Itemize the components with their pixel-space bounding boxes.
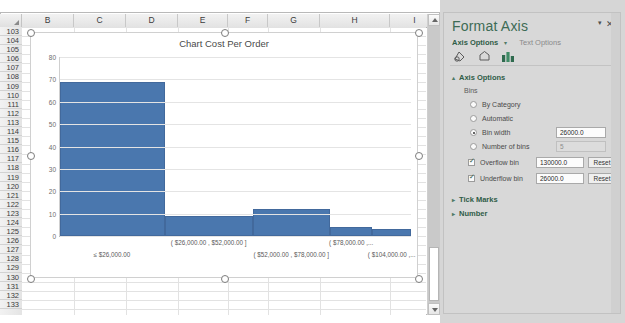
row-header-108[interactable]: 108 — [0, 72, 22, 81]
pane-scrollbar[interactable] — [611, 13, 620, 313]
chart-handle-top-center[interactable] — [221, 29, 229, 37]
histogram-bar[interactable] — [330, 227, 372, 236]
option-number-of-bins[interactable]: Number of bins — [470, 143, 529, 150]
row-header-104[interactable]: 104 — [0, 36, 22, 45]
row-header-106[interactable]: 106 — [0, 54, 22, 63]
radio-number-of-bins-icon[interactable] — [470, 143, 477, 150]
row-header-133[interactable]: 133 — [0, 300, 22, 309]
column-header-E[interactable]: E — [178, 14, 228, 27]
pane-icon-row[interactable] — [453, 50, 516, 63]
chart-handle-middle-right[interactable] — [415, 152, 423, 160]
underflow-bin-input[interactable]: 26000.0 — [536, 173, 584, 184]
histogram-bar[interactable] — [165, 216, 253, 236]
row-header-109[interactable]: 109 — [0, 82, 22, 91]
row-header-119[interactable]: 119 — [0, 173, 22, 182]
section-axis-options[interactable]: ▴Axis Options — [452, 73, 505, 82]
column-header-H[interactable]: H — [320, 14, 390, 27]
fill-line-icon[interactable] — [453, 50, 468, 63]
checkbox-underflow-bin-icon[interactable] — [468, 175, 475, 182]
number-of-bins-input[interactable]: 5 — [556, 141, 606, 152]
chart-plot-area[interactable]: 01020304050607080 — [59, 57, 411, 237]
option-automatic[interactable]: Automatic — [470, 115, 513, 122]
tick-marks-expand-arrow[interactable]: ▸ — [452, 196, 459, 203]
row-header-131[interactable]: 131 — [0, 282, 22, 291]
row-header-110[interactable]: 110 — [0, 91, 22, 100]
row-header-117[interactable]: 117 — [0, 154, 22, 163]
spreadsheet-area[interactable]: BCDEFGHI 1031041051061071081091101111121… — [0, 0, 440, 323]
chart-gridline — [60, 214, 411, 215]
row-header-105[interactable]: 105 — [0, 45, 22, 54]
bin-width-input[interactable]: 26000.0 — [556, 127, 606, 138]
chart-gridline — [60, 147, 411, 148]
row-header-120[interactable]: 120 — [0, 182, 22, 191]
number-expand-arrow[interactable]: ▸ — [452, 210, 459, 217]
x-axis-tick-label: ( $104,000.00 ,... — [368, 251, 416, 258]
row-headers[interactable]: 1031041051061071081091101111121131141151… — [0, 27, 23, 315]
radio-by-category-icon[interactable] — [470, 101, 477, 108]
row-header-124[interactable]: 124 — [0, 218, 22, 227]
radio-bin-width-icon[interactable] — [470, 129, 477, 136]
format-axis-pane[interactable]: Format Axis ▾ ✕ Axis Options ▾ Text Opti… — [443, 12, 621, 314]
column-header-G[interactable]: G — [268, 14, 320, 27]
row-header-126[interactable]: 126 — [0, 236, 22, 245]
chart-handle-top-right[interactable] — [415, 29, 423, 37]
row-header-125[interactable]: 125 — [0, 227, 22, 236]
scrollbar-track[interactable] — [428, 26, 440, 303]
chart-handle-middle-left[interactable] — [27, 152, 35, 160]
column-header-D[interactable]: D — [126, 14, 178, 27]
option-bin-width[interactable]: Bin width — [470, 129, 510, 136]
row-header-130[interactable]: 130 — [0, 273, 22, 282]
scroll-down-button[interactable] — [428, 303, 440, 315]
option-overflow-bin[interactable]: Overflow bin — [468, 159, 519, 166]
row-header-127[interactable]: 127 — [0, 245, 22, 254]
column-header-C[interactable]: C — [74, 14, 126, 27]
row-header-121[interactable]: 121 — [0, 191, 22, 200]
option-by-category[interactable]: By Category — [470, 101, 521, 108]
column-header-B[interactable]: B — [22, 14, 74, 27]
row-header-112[interactable]: 112 — [0, 109, 22, 118]
row-header-107[interactable]: 107 — [0, 63, 22, 72]
row-header-118[interactable]: 118 — [0, 163, 22, 172]
tab-axis-options[interactable]: Axis Options — [452, 38, 498, 47]
overflow-bin-input[interactable]: 130000.0 — [536, 157, 584, 168]
sheet-vertical-scrollbar[interactable] — [427, 14, 440, 315]
row-header-122[interactable]: 122 — [0, 200, 22, 209]
column-headers[interactable]: BCDEFGHI — [0, 14, 440, 28]
row-header-132[interactable]: 132 — [0, 291, 22, 300]
section-expand-arrow[interactable]: ▴ — [452, 74, 459, 81]
row-header-114[interactable]: 114 — [0, 127, 22, 136]
row-header-113[interactable]: 113 — [0, 118, 22, 127]
scrollbar-thumb[interactable] — [429, 247, 439, 301]
row-header-128[interactable]: 128 — [0, 254, 22, 263]
section-number[interactable]: ▸Number — [452, 209, 487, 218]
section-tick-marks[interactable]: ▸Tick Marks — [452, 195, 498, 204]
chart-handle-bottom-center[interactable] — [221, 275, 229, 283]
chevron-down-icon[interactable]: ▾ — [598, 19, 602, 27]
chart-handle-bottom-left[interactable] — [27, 275, 35, 283]
row-header-111[interactable]: 111 — [0, 100, 22, 109]
excel-window: BCDEFGHI 1031041051061071081091101111121… — [0, 0, 625, 323]
pane-tabs[interactable]: Axis Options ▾ Text Options — [452, 38, 561, 47]
radio-automatic-icon[interactable] — [470, 115, 477, 122]
column-header-F[interactable]: F — [228, 14, 268, 27]
chart-handle-top-left[interactable] — [27, 29, 35, 37]
row-header-115[interactable]: 115 — [0, 136, 22, 145]
row-header-123[interactable]: 123 — [0, 209, 22, 218]
option-underflow-bin[interactable]: Underflow bin — [468, 175, 523, 182]
row-header-129[interactable]: 129 — [0, 263, 22, 272]
tab-axis-options-caret[interactable]: ▾ — [504, 39, 507, 46]
row-header-116[interactable]: 116 — [0, 145, 22, 154]
option-automatic-label: Automatic — [482, 115, 513, 122]
checkbox-overflow-bin-icon[interactable] — [468, 159, 475, 166]
chart-handle-bottom-right[interactable] — [415, 275, 423, 283]
y-axis-tick-label: 80 — [49, 54, 56, 61]
histogram-bar[interactable] — [372, 229, 411, 236]
row-header-103[interactable]: 103 — [0, 27, 22, 36]
axis-options-icon[interactable] — [501, 50, 516, 63]
histogram-chart-object[interactable]: Chart Cost Per Order 01020304050607080 ≤… — [30, 32, 418, 278]
scroll-up-button[interactable] — [428, 14, 440, 26]
select-all-corner[interactable] — [0, 14, 22, 27]
effects-icon[interactable] — [477, 50, 492, 63]
option-overflow-bin-label: Overflow bin — [480, 159, 519, 166]
tab-text-options[interactable]: Text Options — [519, 38, 561, 47]
